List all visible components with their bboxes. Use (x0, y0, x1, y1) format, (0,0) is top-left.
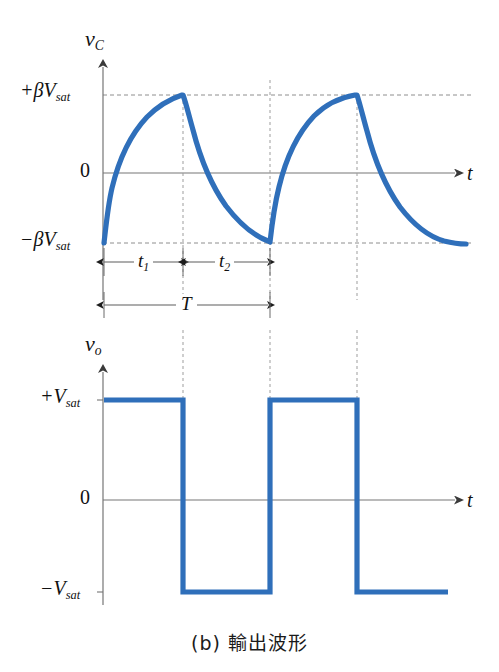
level-label-zero-vc: 0 (80, 160, 90, 180)
level-label-pos-vsat: +Vsat (40, 386, 80, 409)
waveform-capacitor-voltage (104, 95, 466, 244)
plot-output-voltage (97, 330, 455, 605)
figure-root: vC +βVsat 0 −βVsat t t1 t2 T vo +Vsat 0 … (0, 0, 499, 672)
y-axis-label-vc: vC (85, 28, 104, 53)
x-axis-label-vo: t (467, 490, 473, 510)
plot-capacitor-voltage (103, 67, 474, 300)
level-label-zero-vo: 0 (80, 487, 90, 507)
figure-caption: (b) 輸出波形 (0, 628, 499, 655)
waveform-figure-svg (0, 0, 499, 672)
level-label-neg-vsat: −Vsat (40, 578, 80, 601)
y-axis-label-vo: vo (85, 333, 102, 358)
x-axis-label-vc: t (467, 163, 473, 183)
level-label-neg-beta-vsat: −βVsat (20, 229, 70, 252)
annotation-label-t1: t1 (134, 251, 153, 273)
annotation-label-T: T (176, 294, 197, 313)
level-label-pos-beta-vsat: +βVsat (20, 80, 70, 103)
waveform-output-voltage (104, 400, 448, 592)
annotation-label-t2: t2 (215, 251, 234, 273)
